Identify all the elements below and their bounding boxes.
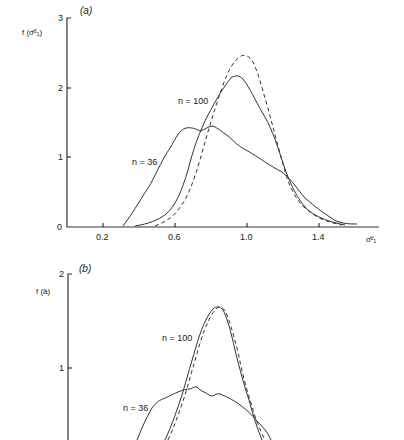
curve-label-n36-b: n = 36 [123,403,148,413]
y-tick-label: 3 [58,13,63,23]
y-tick-label: 0 [57,222,62,232]
x-tick-label: 1.0 [240,232,253,242]
panel-a-label: (a) [80,5,92,16]
chart-b-axes [68,274,72,440]
chart-b: (b) f (â) 2 1 n = 100 n = 36 [36,263,271,440]
curve-label-n100-b: n = 100 [162,333,192,343]
curve-limiting-b [168,307,265,440]
x-tick-label: 0.2 [96,232,109,242]
y-tick-label: 2 [58,83,63,93]
panel-b-label: (b) [79,263,91,274]
y-tick-label: 1 [58,152,63,162]
curve-n100-b [165,307,262,440]
panel-b-y-label: f (â) [36,287,51,296]
panel-a-x-label: σ̂²₁ [366,235,377,244]
x-tick-label: 0.6 [168,232,181,242]
curve-n100-a [135,76,345,226]
curve-limiting-a [155,55,342,226]
x-tick-label: 1.4 [312,232,325,242]
chart-a: (a) f (σ̂²₁) 3 2 1 0 0.2 0.6 1.0 1.4 σ̂²… [22,5,379,244]
figure: (a) f (σ̂²₁) 3 2 1 0 0.2 0.6 1.0 1.4 σ̂²… [0,0,404,440]
y-tick-label: 2 [59,269,64,279]
panel-a-y-label: f (σ̂²₁) [22,28,42,37]
chart-a-axes [67,18,379,227]
curve-label-n36-a: n = 36 [132,157,157,167]
y-tick-label: 1 [59,363,64,373]
curve-label-n100-a: n = 100 [178,96,208,106]
curve-n36-a [123,126,357,226]
curve-n36-b [137,387,271,440]
